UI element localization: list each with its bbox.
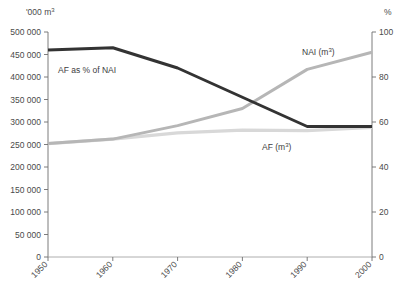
- left-tick-label: 400 000: [10, 72, 41, 82]
- series-line-af-pct-of-nai: [48, 48, 372, 127]
- series-annotation-nai: NAI (m3): [302, 47, 335, 57]
- left-axis-ticks: 500 000 450 000 400 000 350 000 300 000 …: [10, 27, 48, 262]
- left-tick-label: 500 000: [10, 27, 41, 37]
- left-tick-label: 100 000: [10, 207, 41, 217]
- left-tick-label: 350 000: [10, 95, 41, 105]
- right-axis-ticks: 100 80 60 40 20 0: [372, 27, 393, 262]
- x-tick-label: 1980: [223, 259, 244, 280]
- right-tick-label: 80: [379, 72, 389, 82]
- left-tick-label: 300 000: [10, 117, 41, 127]
- x-tick-label: 1970: [159, 259, 180, 280]
- series-annotation-af: AF (m3): [262, 142, 291, 152]
- chart-container: '000 m3 % 500 000 450 000 400 000 350 00…: [0, 0, 404, 285]
- right-tick-label: 20: [379, 207, 389, 217]
- left-tick-label: 200 000: [10, 162, 41, 172]
- right-tick-label: 100: [379, 27, 393, 37]
- right-tick-label: 60: [379, 117, 389, 127]
- right-tick-label: 40: [379, 162, 389, 172]
- x-axis-ticks: 1950 1960 1970 1980 1990 2000: [29, 257, 374, 280]
- x-tick-label: 1960: [94, 259, 115, 280]
- x-tick-label: 1990: [288, 259, 309, 280]
- right-axis-unit-label: %: [384, 7, 392, 17]
- x-tick-label: 1950: [29, 259, 50, 280]
- left-tick-label: 50 000: [15, 230, 41, 240]
- left-tick-label: 250 000: [10, 140, 41, 150]
- left-axis-unit-label: '000 m3: [26, 7, 55, 17]
- series-annotation-af-pct: AF as % of NAI: [58, 65, 116, 75]
- series-group: [48, 48, 372, 144]
- left-tick-label: 150 000: [10, 185, 41, 195]
- right-tick-label: 0: [379, 252, 384, 262]
- left-tick-label: 450 000: [10, 50, 41, 60]
- line-chart: '000 m3 % 500 000 450 000 400 000 350 00…: [0, 0, 404, 285]
- x-tick-label: 2000: [353, 259, 374, 280]
